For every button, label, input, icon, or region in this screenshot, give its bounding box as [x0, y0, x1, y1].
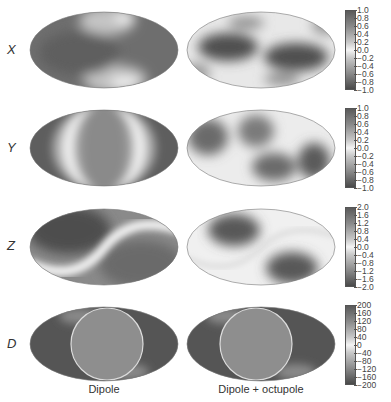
row-label-x: X [7, 42, 16, 57]
row-label-d: D [7, 336, 16, 351]
map-z-octupole [186, 208, 336, 286]
map-y-octupole [186, 109, 336, 187]
tick: −200 [357, 381, 376, 389]
row-label-z: Z [7, 238, 15, 253]
column-label-dipole-octupole: Dipole + octupole [201, 383, 321, 395]
map-x-octupole [186, 11, 336, 89]
map-d-octupole [186, 306, 336, 382]
colorbar-d-ticks: 200 160 120 80 40 0 −40 −80 −120 −160 −2… [357, 305, 391, 385]
map-x-dipole [29, 11, 179, 89]
colorbar-z-ticks: 2.0 1.6 1.2 0.8 0.4 0.0 −0.4 −0.8 −1.2 −… [357, 207, 391, 287]
colorbar-x-ticks: 1.0 0.8 0.6 0.4 0.2 0.0 −0.2 −0.4 −0.6 −… [357, 10, 391, 90]
tick: −1.0 [357, 86, 374, 94]
column-label-dipole: Dipole [59, 383, 149, 395]
row-label-y: Y [7, 140, 16, 155]
colorbar-y-ticks: 1.0 0.8 0.6 0.4 0.2 0.0 −0.2 −0.4 −0.6 −… [357, 108, 391, 188]
map-z-dipole [29, 208, 179, 286]
map-y-dipole [29, 109, 179, 187]
tick: −1.0 [357, 184, 374, 192]
map-d-dipole [29, 306, 179, 382]
tick: −2.0 [357, 283, 374, 291]
